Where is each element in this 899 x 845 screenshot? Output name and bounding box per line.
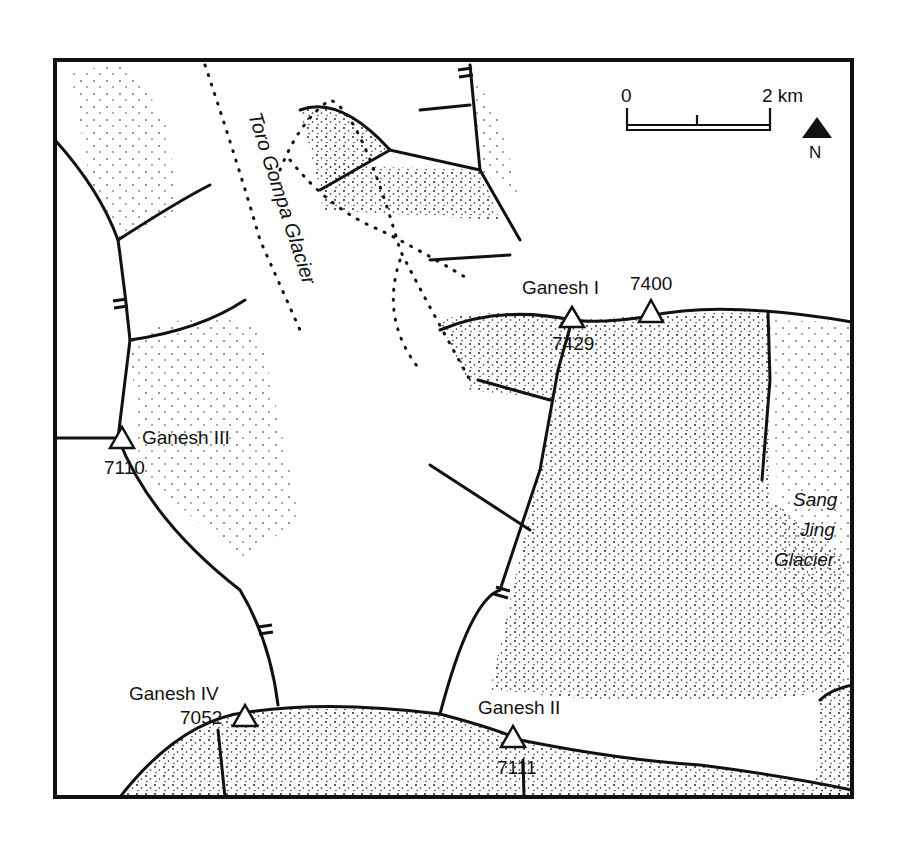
peak-name-ganesh-i: Ganesh I [522, 278, 599, 297]
glacier-label-glacier: Glacier [774, 550, 834, 569]
peak-elevation-7429: 7429 [552, 334, 594, 353]
peak-name-ganesh-ii: Ganesh II [478, 698, 560, 717]
peak-name-ganesh-iv: Ganesh IV [129, 684, 219, 703]
peak-elevation-7052: 7052 [180, 708, 222, 727]
scale-start-label: 0 [621, 86, 632, 105]
peak-elevation-7110: 7110 [104, 458, 145, 477]
glacier-label-jing: Jing [800, 520, 835, 539]
scale-bar [627, 108, 770, 130]
peak-icon-7400 [639, 300, 663, 322]
map-canvas: Toro Gompa Glacier [0, 0, 899, 845]
north-arrow-icon [802, 117, 832, 138]
north-label: N [809, 144, 821, 161]
peak-name-ganesh-iii: Ganesh III [142, 428, 230, 447]
scale-end-label: 2 km [762, 86, 803, 105]
glacier-label-sang: Sang [793, 490, 837, 509]
peak-elevation-7111: 7111 [497, 758, 536, 777]
peak-elevation-7400: 7400 [630, 274, 672, 293]
